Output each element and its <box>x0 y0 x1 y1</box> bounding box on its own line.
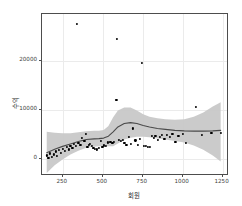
y-axis-title: 수익 <box>11 97 20 110</box>
data-point <box>161 134 163 136</box>
data-point <box>128 136 130 138</box>
data-point <box>81 137 83 139</box>
data-point <box>105 145 107 147</box>
data-point <box>53 153 55 155</box>
x-tick-mark <box>102 175 103 177</box>
y-tick-mark <box>39 60 41 61</box>
data-point <box>121 139 123 141</box>
data-point <box>177 134 179 136</box>
y-tick-mark <box>39 109 41 110</box>
data-point <box>116 37 118 39</box>
x-tick-mark <box>142 175 143 177</box>
data-point <box>132 127 134 129</box>
x-tick-label: 1000 <box>170 179 194 185</box>
data-point <box>54 150 56 152</box>
x-axis-title: 회원 <box>41 191 228 200</box>
data-point <box>149 146 151 148</box>
data-point <box>168 136 170 138</box>
data-point <box>99 140 101 142</box>
y-tick-label: 0 <box>33 155 37 161</box>
data-point <box>113 141 115 143</box>
data-point <box>195 106 197 108</box>
data-point <box>51 156 53 158</box>
plot-panel <box>41 13 228 175</box>
x-tick-mark <box>222 175 223 177</box>
x-tick-label: 1250 <box>210 179 234 185</box>
data-point <box>157 139 159 141</box>
x-tick-mark <box>62 175 63 177</box>
data-point <box>201 134 203 136</box>
data-point <box>56 155 58 157</box>
data-points-layer <box>42 14 227 174</box>
data-point <box>64 150 66 152</box>
data-point <box>125 143 127 145</box>
data-point <box>210 132 212 134</box>
data-point <box>83 140 85 142</box>
x-tick-label: 750 <box>130 179 154 185</box>
data-point <box>58 149 60 151</box>
y-tick-label: 10000 <box>19 106 37 112</box>
data-point <box>76 23 78 25</box>
data-point <box>60 152 62 154</box>
data-point <box>71 147 73 149</box>
data-point <box>68 148 70 150</box>
data-point <box>154 135 156 137</box>
data-point <box>174 141 176 143</box>
x-tick-mark <box>182 175 183 177</box>
data-point <box>166 134 168 136</box>
data-point <box>185 142 187 144</box>
data-point <box>47 156 49 158</box>
data-point <box>97 147 99 149</box>
data-point <box>130 143 132 145</box>
data-point <box>115 99 117 101</box>
data-point <box>85 133 87 135</box>
data-point <box>159 136 161 138</box>
scatter-plot-chart: 01000020000 25050075010001250 수익 회원 <box>0 0 242 206</box>
x-tick-label: 250 <box>50 179 74 185</box>
data-point <box>79 143 81 145</box>
data-point <box>134 139 136 141</box>
data-point <box>101 146 103 148</box>
data-point <box>136 144 138 146</box>
y-tick-mark <box>39 158 41 159</box>
data-point <box>139 138 141 140</box>
data-point <box>171 133 173 135</box>
data-point <box>163 138 165 140</box>
y-tick-label: 20000 <box>19 57 37 63</box>
data-point <box>182 133 184 135</box>
data-point <box>49 152 51 154</box>
data-point <box>220 132 222 134</box>
x-tick-label: 500 <box>90 179 114 185</box>
data-point <box>141 62 143 64</box>
data-point <box>75 144 77 146</box>
